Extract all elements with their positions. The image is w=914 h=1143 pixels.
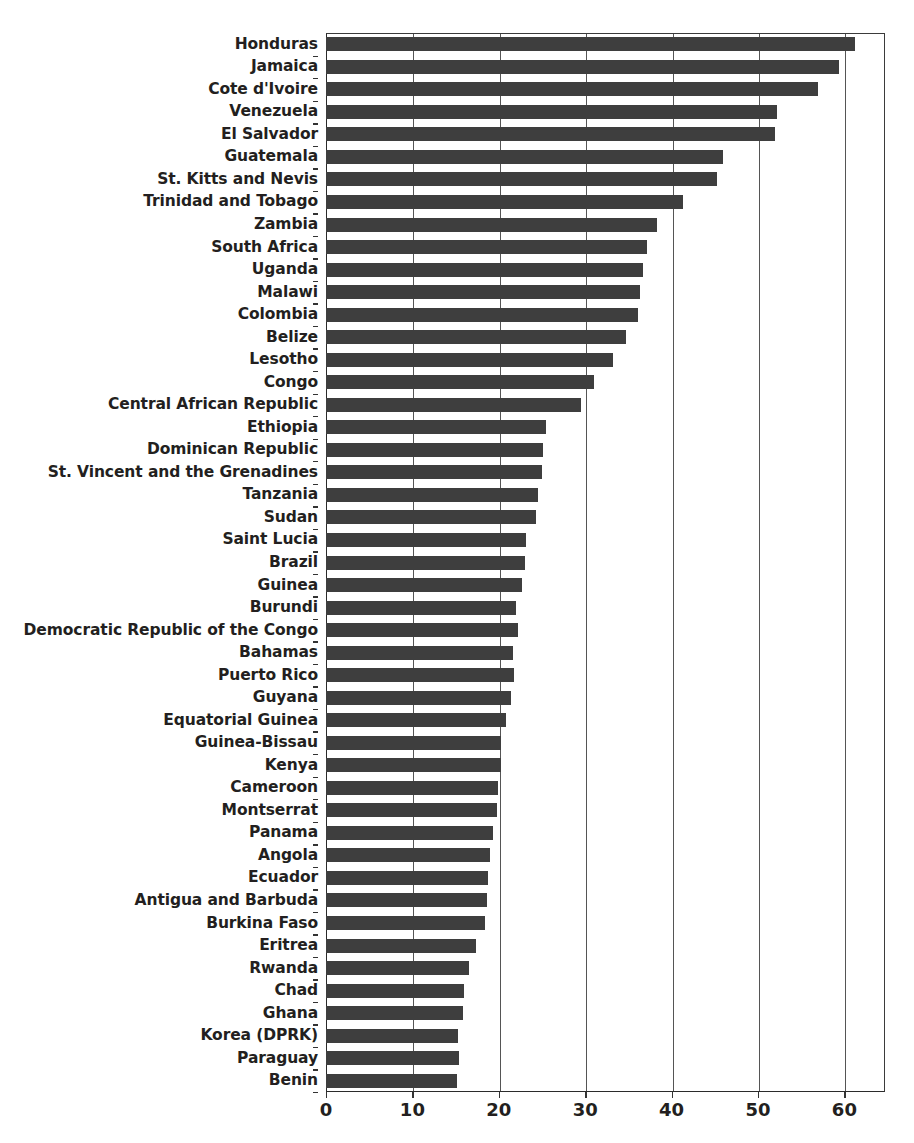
category-label: Lesotho <box>249 352 318 368</box>
category-label: Colombia <box>238 307 318 323</box>
bar <box>326 758 501 772</box>
category-label: Guyana <box>253 690 318 706</box>
category-label: Venezuela <box>229 104 318 120</box>
category-label: Antigua and Barbuda <box>135 893 318 909</box>
category-label: Cote d'Ivoire <box>208 82 318 98</box>
bar <box>326 443 543 457</box>
bar <box>326 488 538 502</box>
category-label: Guatemala <box>224 149 318 165</box>
category-label: Paraguay <box>237 1051 318 1067</box>
category-label: Rwanda <box>249 961 318 977</box>
category-label: Guinea-Bissau <box>195 735 318 751</box>
category-label: Ecuador <box>248 870 318 886</box>
x-tick-mark <box>326 1092 327 1098</box>
bar <box>326 105 777 119</box>
category-label: Chad <box>274 983 318 999</box>
bar <box>326 736 501 750</box>
bar <box>326 353 613 367</box>
bar <box>326 398 581 412</box>
category-label: Cameroon <box>230 780 318 796</box>
x-tick-mark <box>499 1092 500 1098</box>
horizontal-bar-chart: HondurasJamaicaCote d'IvoireVenezuelaEl … <box>0 0 914 1143</box>
bar <box>326 375 594 389</box>
y-tick-mark <box>313 236 318 237</box>
category-label: Eritrea <box>259 938 318 954</box>
category-label: Uganda <box>252 262 318 278</box>
category-label: Zambia <box>254 217 318 233</box>
y-tick-mark <box>313 957 318 958</box>
bar <box>326 330 626 344</box>
category-label: South Africa <box>211 240 318 256</box>
bar <box>326 939 476 953</box>
x-tick-mark <box>758 1092 759 1098</box>
category-label: Democratic Republic of the Congo <box>24 623 318 639</box>
category-label: Malawi <box>257 285 318 301</box>
category-label: Trinidad and Tobago <box>143 194 318 210</box>
bar <box>326 556 525 570</box>
category-label: Honduras <box>235 37 318 53</box>
bar <box>326 691 511 705</box>
category-label: Puerto Rico <box>218 668 318 684</box>
bar <box>326 1051 459 1065</box>
x-tick-label: 10 <box>400 1101 425 1119</box>
bar <box>326 668 514 682</box>
bar <box>326 781 498 795</box>
category-label: Kenya <box>265 758 318 774</box>
bar <box>326 893 487 907</box>
x-tick-mark <box>585 1092 586 1098</box>
category-label: Ethiopia <box>247 420 318 436</box>
bar <box>326 263 643 277</box>
bar <box>326 195 683 209</box>
bar <box>326 601 516 615</box>
x-tick-label: 20 <box>486 1101 511 1119</box>
category-label: Ghana <box>263 1006 318 1022</box>
bar <box>326 533 526 547</box>
category-label: Saint Lucia <box>222 532 318 548</box>
bar <box>326 826 493 840</box>
bar <box>326 60 839 74</box>
category-label: Sudan <box>264 510 318 526</box>
bar <box>326 82 818 96</box>
x-tick-mark <box>844 1092 845 1098</box>
x-tick-label: 0 <box>320 1101 333 1119</box>
x-tick-label: 40 <box>659 1101 684 1119</box>
y-tick-mark <box>313 619 318 620</box>
bar <box>326 1074 457 1088</box>
category-label: Bahamas <box>239 645 318 661</box>
y-tick-mark <box>313 912 318 913</box>
bar <box>326 240 647 254</box>
category-label: Benin <box>269 1073 318 1089</box>
category-label: Korea (DPRK) <box>200 1028 318 1044</box>
bar <box>326 578 522 592</box>
x-axis: 0102030405060 <box>326 1092 885 1142</box>
bar <box>326 127 775 141</box>
x-tick-label: 50 <box>745 1101 770 1119</box>
bar <box>326 961 469 975</box>
category-label: Equatorial Guinea <box>163 713 318 729</box>
bar <box>326 218 657 232</box>
category-label: Jamaica <box>251 59 318 75</box>
bar <box>326 646 513 660</box>
category-label: Brazil <box>269 555 318 571</box>
bar <box>326 803 497 817</box>
category-label: St. Vincent and the Grenadines <box>48 465 318 481</box>
category-label: Dominican Republic <box>147 442 318 458</box>
x-tick-label: 30 <box>573 1101 598 1119</box>
bar <box>326 308 638 322</box>
bar <box>326 984 464 998</box>
x-tick-mark <box>672 1092 673 1098</box>
category-labels: HondurasJamaicaCote d'IvoireVenezuelaEl … <box>0 33 318 1092</box>
x-tick-mark <box>412 1092 413 1098</box>
category-label: Tanzania <box>242 487 318 503</box>
bar <box>326 420 546 434</box>
category-label: Congo <box>264 375 318 391</box>
bar <box>326 713 506 727</box>
category-label: Montserrat <box>222 803 318 819</box>
category-label: Guinea <box>258 578 318 594</box>
category-label: Central African Republic <box>108 397 318 413</box>
bar <box>326 1006 463 1020</box>
x-tick-label: 60 <box>832 1101 857 1119</box>
bar <box>326 871 488 885</box>
category-label: El Salvador <box>221 127 318 143</box>
category-label: Burundi <box>250 600 318 616</box>
